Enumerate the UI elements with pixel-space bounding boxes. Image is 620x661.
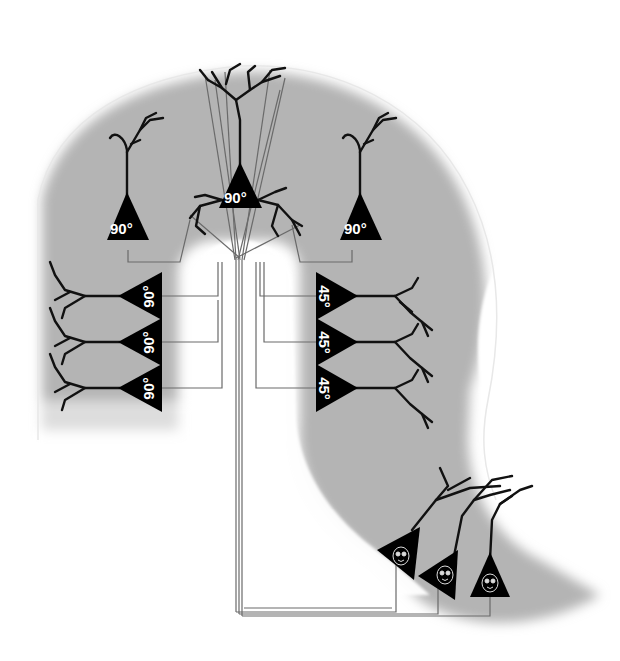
label-top-center: 90° — [224, 190, 247, 205]
label-left-3: 90° — [141, 377, 156, 400]
label-top-right: 90° — [344, 221, 367, 236]
label-top-left: 90° — [110, 221, 133, 236]
label-right-2: 45° — [317, 331, 332, 354]
label-right-1: 45° — [317, 285, 332, 308]
label-left-1: 90° — [141, 285, 156, 308]
label-left-2: 90° — [141, 331, 156, 354]
neural-circuit-diagram — [0, 0, 620, 661]
label-right-3: 45° — [317, 377, 332, 400]
